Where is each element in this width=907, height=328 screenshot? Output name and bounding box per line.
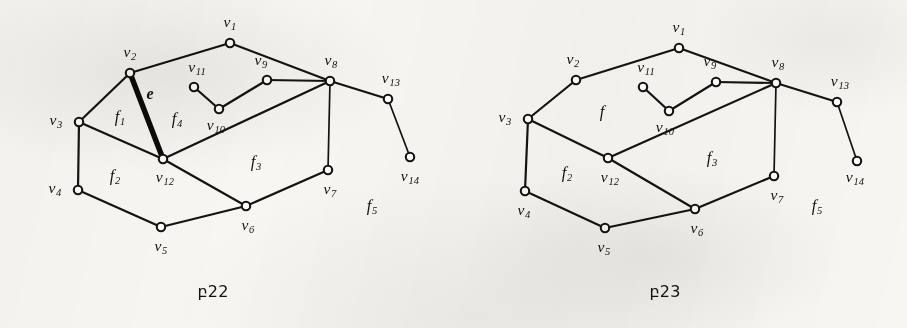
figure-23-vertex-label-v3: v3 <box>499 109 512 128</box>
figure-23-vertex-label-v4-subscript: 4 <box>525 209 531 220</box>
figure-23-face-label-f2-base: f <box>562 163 567 182</box>
graph-vertex-v11 <box>190 83 198 91</box>
figure-23-vertex-label-v5-subscript: 5 <box>605 246 611 257</box>
figure-22-vertex-label-v3-base: v <box>50 111 57 128</box>
figure-22-vertex-label-v3-subscript: 3 <box>57 119 63 130</box>
figure-23-face-label-f-base: f <box>600 102 605 121</box>
figure-23-vertex-label-v11-base: v <box>637 58 644 75</box>
figure-22-vertex-label-v10-base: v <box>207 116 214 133</box>
figure-23-vertex-label-v7-subscript: 7 <box>778 194 784 205</box>
figure-23-face-label-f2-subscript: 2 <box>566 172 572 183</box>
figure-23-vertex-label-v2: v2 <box>567 51 580 70</box>
graph-edge-v13-v14 <box>388 99 410 157</box>
figure-23-vertex-label-v7: v7 <box>771 187 784 206</box>
graph-vertex-v14 <box>853 157 861 165</box>
figure-22-vertex-label-v13: v13 <box>382 70 400 89</box>
figure-23-vertex-label-v10-base: v <box>656 118 663 135</box>
figure-23-face-label-f5-base: f <box>812 196 817 215</box>
figure-23-vertex-label-v14: v14 <box>846 169 864 188</box>
figure-22-vertex-label-v9-base: v <box>255 51 262 68</box>
figure-23-vertex-label-v13-subscript: 13 <box>838 80 849 91</box>
graph-vertex-v1 <box>675 44 683 52</box>
figure-23-vertex-label-v4-base: v <box>518 201 525 218</box>
graph-edge-v5-v6 <box>605 209 695 228</box>
graph-vertex-v5 <box>601 224 609 232</box>
figure-22-face-label-f1: f1 <box>115 109 126 128</box>
figure-22-face-label-f1-base: f <box>115 107 120 126</box>
graph-vertex-v12 <box>159 155 167 163</box>
figure-22-vertex-label-v5-base: v <box>155 237 162 254</box>
figure-22-face-label-f1-subscript: 1 <box>119 116 125 127</box>
figure-23-vertex-label-v13-base: v <box>831 72 838 89</box>
figure-22-vertex-label-v8-base: v <box>325 51 332 68</box>
figure-22-vertex-label-v11-base: v <box>188 58 195 75</box>
figure-23-caption: բ23 <box>649 282 680 301</box>
graph-vertex-v10 <box>665 107 673 115</box>
graph-edge-v9-v10 <box>669 82 716 111</box>
figure-22 <box>74 39 414 231</box>
graph-edge-v1-v8 <box>679 48 776 83</box>
graph-edge-v8-v13 <box>330 81 388 99</box>
figure-22-vertex-label-v7-base: v <box>324 180 331 197</box>
figure-23-vertex-label-v12-base: v <box>601 168 608 185</box>
graph-edge-v9-v10 <box>219 80 267 109</box>
figure-22-vertex-label-v7-subscript: 7 <box>331 188 337 199</box>
graph-edge-v8-v9 <box>267 80 330 81</box>
graph-edge-v4-v5 <box>525 191 605 228</box>
graph-vertex-v7 <box>324 166 332 174</box>
figure-23-vertex-label-v8-base: v <box>772 53 779 70</box>
figure-22-vertex-label-v8: v8 <box>325 52 338 71</box>
figure-22-vertex-label-v6-subscript: 6 <box>249 224 255 235</box>
figure-22-vertex-label-v10: v10 <box>207 117 225 136</box>
figure-23-vertex-label-v9-base: v <box>704 52 711 69</box>
figure-23-vertex-label-v10: v10 <box>656 119 674 138</box>
figure-22-vertex-label-v13-subscript: 13 <box>389 77 400 88</box>
figure-23-vertex-label-v4: v4 <box>518 202 531 221</box>
graph-edge-v8-v12 <box>608 83 776 158</box>
graph-vertex-v11 <box>639 83 647 91</box>
graph-vertex-v5 <box>157 223 165 231</box>
figure-22-face-label-f5-subscript: 5 <box>371 205 377 216</box>
figure-23-face-label-f3-base: f <box>707 148 712 167</box>
figure-22-vertex-label-v9: v9 <box>255 52 268 71</box>
graph-vertex-v4 <box>74 186 82 194</box>
figure-22-vertex-label-v2: v2 <box>124 44 137 63</box>
graph-vertex-v8 <box>772 79 780 87</box>
graph-edge-v7-v8 <box>328 81 330 170</box>
figure-22-vertex-label-v6: v6 <box>242 217 255 236</box>
figure-22-face-label-f5: f5 <box>367 198 378 217</box>
figure-22-vertex-label-v3: v3 <box>50 112 63 131</box>
figure-22-vertex-label-v4-base: v <box>49 179 56 196</box>
figure-23-vertex-label-v5-base: v <box>598 238 605 255</box>
figure-22-edge-label-e-base: e <box>146 85 153 102</box>
figure-23-vertex-label-v12: v12 <box>601 169 619 188</box>
figure-22-face-label-f4: f4 <box>172 111 183 130</box>
figure-22-vertex-label-v14-subscript: 14 <box>408 175 419 186</box>
figure-22-vertex-label-v12-base: v <box>156 168 163 185</box>
figure-22-face-label-f3: f3 <box>251 154 262 173</box>
figure-23-vertex-label-v7-base: v <box>771 186 778 203</box>
graph-vertex-v13 <box>833 98 841 106</box>
figure-22-vertex-label-v10-subscript: 10 <box>214 124 225 135</box>
figure-23-vertex-label-v1: v1 <box>673 19 686 38</box>
figure-23-face-label-f3-subscript: 3 <box>711 157 717 168</box>
graph-vertex-v6 <box>691 205 699 213</box>
figure-23-vertex-label-v1-base: v <box>673 18 680 35</box>
graph-edge-v2-v3 <box>528 80 576 119</box>
graph-vertex-v9 <box>263 76 271 84</box>
figure-23-vertex-label-v6-base: v <box>691 219 698 236</box>
graph-edge-v6-v7 <box>695 176 774 209</box>
figure-22-vertex-label-v9-subscript: 9 <box>262 59 268 70</box>
graph-edge-v5-v6 <box>161 206 246 227</box>
figure-23-vertex-label-v10-subscript: 10 <box>663 126 674 137</box>
figure-23-face-label-f5-subscript: 5 <box>816 205 822 216</box>
graph-edge-v7-v8 <box>774 83 776 176</box>
graph-vertex-v10 <box>215 105 223 113</box>
figure-23-vertex-label-v5: v5 <box>598 239 611 258</box>
figure-22-vertex-label-v8-subscript: 8 <box>332 59 338 70</box>
figure-22-face-label-f3-subscript: 3 <box>255 161 261 172</box>
graph-edge-v6-v12 <box>163 159 246 206</box>
graph-vertex-v14 <box>406 153 414 161</box>
graph-vertex-v7 <box>770 172 778 180</box>
figure-22-vertex-label-v1-subscript: 1 <box>231 21 237 32</box>
